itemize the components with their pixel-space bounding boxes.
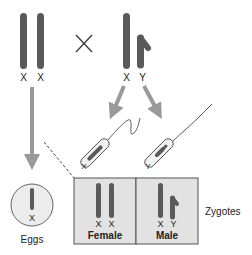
male-y-label: Y <box>170 219 176 229</box>
cross-symbol <box>76 35 92 52</box>
female-label: Female <box>88 230 123 241</box>
eggs-label: Eggs <box>21 234 44 245</box>
sperm-x: X <box>79 118 140 171</box>
male-label: Male <box>156 230 179 241</box>
arrow-father-to-y-sperm <box>144 86 158 112</box>
male-x-chromosome <box>158 183 163 218</box>
fertilization-dashed-line <box>44 142 74 178</box>
female-x-label-2: X <box>108 219 114 229</box>
sperm-x-label: X <box>81 162 87 171</box>
mother-x-label-1: X <box>20 72 27 83</box>
female-x-chromosome-2 <box>109 183 114 218</box>
mother-x-chromosome-2 <box>37 13 44 69</box>
father-y-label: Y <box>139 72 146 83</box>
sperm-y-tail <box>172 104 212 142</box>
mother-chromosomes: X X <box>20 13 44 83</box>
zygotes: X X Female X Y Male <box>74 178 198 244</box>
father-chromosomes: X Y <box>123 13 148 83</box>
sperm-x-tail <box>108 118 140 140</box>
male-x-label: X <box>157 219 163 229</box>
zygotes-label: Zygotes <box>205 206 241 217</box>
sperm-y-label: Y <box>145 162 151 171</box>
arrow-father-to-x-sperm <box>113 86 124 112</box>
sperm-y: Y <box>143 104 212 171</box>
father-x-chromosome <box>123 13 130 69</box>
female-x-label-1: X <box>95 219 101 229</box>
egg-x-chromosome <box>30 188 34 210</box>
egg: X Eggs <box>11 184 53 245</box>
mother-x-label-2: X <box>37 72 44 83</box>
sex-determination-diagram: X X X Y X Y <box>0 0 252 255</box>
father-x-label: X <box>123 72 130 83</box>
mother-x-chromosome-1 <box>20 13 27 69</box>
egg-x-label: X <box>29 213 35 223</box>
female-x-chromosome-1 <box>96 183 101 218</box>
